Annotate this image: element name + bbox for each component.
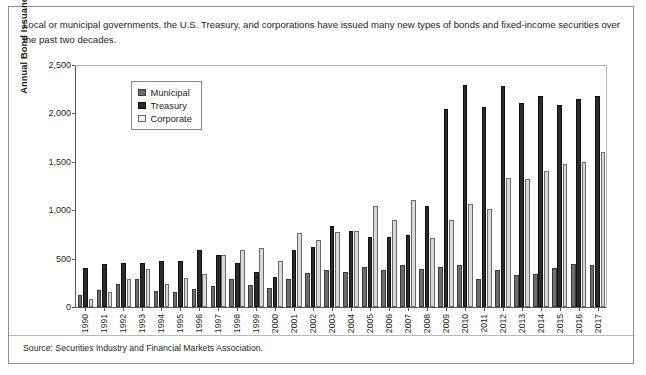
bar-treasury-2001 xyxy=(292,250,297,307)
bar-treasury-2005 xyxy=(368,237,373,307)
bar-municipal-2001 xyxy=(286,279,291,307)
bar-corporate-2016 xyxy=(582,162,587,307)
footer-divider xyxy=(9,335,633,336)
x-tick-label: 2012 xyxy=(498,314,508,333)
bar-corporate-2010 xyxy=(468,204,473,307)
year-bar-group xyxy=(95,65,114,307)
legend-swatch-treasury xyxy=(138,102,146,110)
x-tick-mark xyxy=(408,307,409,311)
x-tick-label: 1993 xyxy=(137,314,147,333)
x-tick-label: 1998 xyxy=(232,314,242,333)
bar-municipal-2010 xyxy=(457,265,462,307)
year-bar-group xyxy=(417,65,436,307)
bar-municipal-1992 xyxy=(116,284,121,307)
y-tick-label: 2,000 xyxy=(48,108,71,118)
bar-corporate-1995 xyxy=(184,278,189,307)
bar-treasury-1990 xyxy=(83,268,88,307)
x-tick-mark xyxy=(104,307,105,311)
y-tick-mark xyxy=(72,113,76,114)
bar-corporate-1994 xyxy=(165,284,170,307)
x-tick-label: 2002 xyxy=(308,314,318,333)
x-tick-mark xyxy=(484,307,485,311)
bar-municipal-2011 xyxy=(476,279,481,307)
year-bar-group xyxy=(550,65,569,307)
bar-treasury-2004 xyxy=(349,231,354,307)
x-tick-mark xyxy=(313,307,314,311)
bar-treasury-1995 xyxy=(178,261,183,307)
bar-corporate-1993 xyxy=(146,269,151,307)
intro-paragraph: Local or municipal governments, the U.S.… xyxy=(23,17,621,47)
bar-corporate-2011 xyxy=(487,209,492,307)
x-tick-mark xyxy=(598,307,599,311)
year-bar-group xyxy=(474,65,493,307)
legend-item-corporate: Corporate xyxy=(138,112,192,125)
bar-treasury-2012 xyxy=(501,86,506,307)
y-tick-mark xyxy=(72,307,76,308)
bar-corporate-1999 xyxy=(259,248,264,307)
x-tick-mark xyxy=(370,307,371,311)
year-bar-group xyxy=(323,65,342,307)
legend-label-municipal: Municipal xyxy=(151,88,190,98)
x-tick-mark xyxy=(237,307,238,311)
bar-corporate-1991 xyxy=(108,292,113,307)
y-tick-label: 1,500 xyxy=(48,157,71,167)
bar-corporate-2003 xyxy=(335,232,340,308)
bar-municipal-1996 xyxy=(192,289,197,307)
bar-treasury-2017 xyxy=(595,96,600,307)
bar-municipal-2016 xyxy=(571,264,576,307)
bar-corporate-2004 xyxy=(354,231,359,307)
bar-treasury-2015 xyxy=(557,105,562,307)
bar-treasury-2011 xyxy=(482,107,487,307)
x-tick-mark xyxy=(389,307,390,311)
bar-corporate-2006 xyxy=(392,220,397,307)
bar-corporate-2001 xyxy=(297,233,302,307)
year-bar-group xyxy=(285,65,304,307)
bar-corporate-2012 xyxy=(506,178,511,307)
bond-issuance-chart: Annual Bond Issuance ($ Billions) 05001,… xyxy=(23,57,621,329)
x-tick-mark xyxy=(579,307,580,311)
x-tick-label: 1997 xyxy=(213,314,223,333)
x-tick-mark xyxy=(85,307,86,311)
bar-corporate-2013 xyxy=(525,179,530,307)
legend-item-treasury: Treasury xyxy=(138,99,192,112)
x-tick-mark xyxy=(218,307,219,311)
x-tick-label: 1990 xyxy=(80,314,90,333)
x-tick-mark xyxy=(256,307,257,311)
x-tick-mark xyxy=(541,307,542,311)
bar-municipal-1997 xyxy=(211,286,216,307)
x-tick-mark xyxy=(275,307,276,311)
bar-municipal-2006 xyxy=(381,270,386,307)
bar-corporate-2002 xyxy=(316,240,321,307)
x-tick-label: 1991 xyxy=(99,314,109,333)
bar-municipal-1999 xyxy=(248,285,253,307)
x-tick-label: 2000 xyxy=(270,314,280,333)
x-tick-label: 2017 xyxy=(593,314,603,333)
bar-corporate-2015 xyxy=(563,164,568,307)
x-tick-mark xyxy=(446,307,447,311)
bar-municipal-2009 xyxy=(438,267,443,307)
bar-corporate-2007 xyxy=(411,200,416,307)
y-tick-mark xyxy=(72,210,76,211)
y-tick-mark xyxy=(72,259,76,260)
x-tick-label: 2008 xyxy=(422,314,432,333)
year-bar-group xyxy=(247,65,266,307)
bar-treasury-1998 xyxy=(235,263,240,307)
source-note: Source: Securities Industry and Financia… xyxy=(23,343,621,353)
bar-corporate-2014 xyxy=(544,171,549,307)
x-tick-label: 1992 xyxy=(118,314,128,333)
x-tick-label: 1996 xyxy=(194,314,204,333)
bar-treasury-1997 xyxy=(216,255,221,307)
bar-municipal-2014 xyxy=(533,274,538,307)
bar-corporate-1998 xyxy=(240,250,245,307)
bar-corporate-1997 xyxy=(221,255,226,307)
year-bar-group xyxy=(531,65,550,307)
bar-municipal-2004 xyxy=(343,272,348,307)
bar-municipal-2005 xyxy=(362,267,367,307)
bar-treasury-2006 xyxy=(387,237,392,307)
x-tick-label: 1995 xyxy=(175,314,185,333)
bar-municipal-2000 xyxy=(267,288,272,307)
bar-municipal-1995 xyxy=(173,292,178,307)
bar-corporate-2009 xyxy=(449,220,454,307)
bar-corporate-2000 xyxy=(278,261,283,307)
year-bar-group xyxy=(228,65,247,307)
